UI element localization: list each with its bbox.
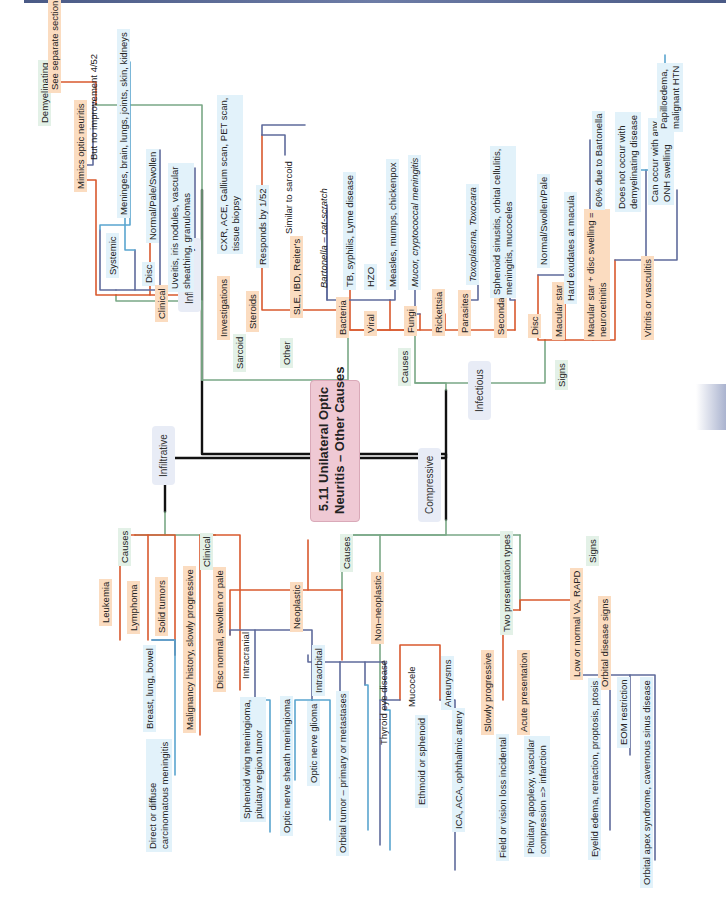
node-disc-normal-pale-swollen: Normal/Pale/Swollen: [146, 149, 159, 243]
node-fungi: Fungi: [404, 306, 417, 336]
category-compressive: Compressive: [418, 448, 441, 522]
node-eom-restriction: EOM restriction: [617, 677, 630, 748]
node-ethmoid-sphenoid: Ethmoid or sphenoid: [415, 715, 428, 808]
node-orbital-disease-signs: Orbital disease signs: [598, 596, 611, 690]
papilloedema-line-2: malignant HTN: [670, 66, 682, 129]
node-similar-to-sarcoid: Similar to sarcoid: [282, 158, 295, 237]
node-optic-nerve-glioma: Optic nerve glioma: [307, 701, 320, 786]
node-normal-swollen-pale: Normal/Swollen/Pale: [537, 174, 550, 268]
any-onh-line-1: Can occur with any: [649, 121, 661, 202]
neuroretinitis-line-1: Macular star + disc swelling =: [585, 212, 597, 337]
node-orbital-tumor: Orbital tumor – primary or metastases: [336, 691, 349, 856]
title-line-2: Neuritis – Other Causes: [332, 384, 348, 514]
node-acute-presentation: Acute presentation: [517, 650, 530, 735]
node-field-vision-loss: Field or vision loss incidental: [496, 734, 509, 861]
node-eyelid-edema: Eyelid edema, retraction, proptosis, pto…: [588, 678, 601, 860]
node-toxoplasma: Toxoplasma, Toxocara: [466, 184, 479, 285]
node-hzo: HZO: [364, 264, 377, 290]
node-pituitary-apoplexy: Pituitary apoplexy, vascular compression…: [524, 736, 550, 857]
node-hard-exudates: Hard exudates at macula: [564, 192, 577, 304]
carcinomatous-line-1: Direct or diffuse: [147, 742, 159, 849]
pituitary-line-1: Pituitary apoplexy, vascular: [525, 739, 537, 854]
pituitary-line-2: compression => infarction: [537, 739, 549, 854]
papilloedema-line-1: Papilloedema,: [658, 66, 670, 129]
node-clinical: Clinical: [155, 285, 168, 322]
node-solid-tumors: Solid tumors: [155, 577, 168, 636]
not-demyelinating-line-1: Does not occur with: [616, 115, 628, 209]
node-uveitis: Uveitis, iris nodules, vascular sheathin…: [168, 164, 194, 293]
uveitis-line-2: sheathing, granulomas: [181, 167, 193, 290]
investigations-line-1: CXR, ACE, Gallium scan, PET scan,: [218, 98, 230, 251]
node-orbital-apex: Orbital apex syndrome, cavernous sinus d…: [640, 677, 653, 888]
node-sphenoid-sinusitis: Sphenoid sinusitis, orbital cellulitis, …: [490, 146, 516, 298]
carcinomatous-line-2: carcinomatous meningitis: [159, 742, 171, 849]
node-vitritis: Vitritis or vasculitis: [641, 256, 654, 340]
title-line-1: 5.11 Unilateral Optic: [316, 384, 332, 514]
bartonella-text: Bartonella – cat-scratch: [318, 188, 329, 288]
node-breast-lung-bowel: Breast, lung, bowel: [143, 645, 156, 732]
node-viral: Viral: [364, 311, 377, 336]
sphenoid-line-1: Sphenoid sinusitis, orbital cellulitis,: [491, 149, 503, 295]
node-optic-sheath-meningioma: Optic nerve sheath meningioma: [280, 696, 293, 836]
node-sle-ibd-reiters: SLE, IBD, Reiter's: [290, 236, 303, 318]
node-carcinomatous: Direct or diffuse carcinomatous meningit…: [146, 739, 172, 852]
category-infectious: Infectious: [468, 361, 491, 420]
node-mimics-optic-neuritis: Mimics optic neuritis: [74, 100, 87, 192]
node-compressive-signs: Signs: [586, 536, 599, 566]
node-bacteria: Bacteria: [336, 297, 349, 338]
node-sarcoid: Sarcoid: [233, 334, 246, 372]
node-parasites: Parasites: [458, 290, 471, 336]
node-leukemia: Leukemia: [99, 579, 112, 626]
node-slowly-progressive: Slowly progressive: [481, 650, 494, 735]
node-no-improvement: But no improvement 4/52: [87, 51, 100, 163]
node-infectious-causes: Causes: [398, 348, 411, 386]
investigations-line-2: tissue biopsy: [230, 98, 242, 251]
node-aneurysms: Aneurysms: [441, 656, 454, 710]
node-bartonella-60: 60% due to Bartonella: [592, 111, 605, 210]
node-sphenoid-wing-meningioma: Sphenoid wing meningioma, pituitary regi…: [240, 697, 266, 822]
node-compressive-causes: Causes: [340, 534, 353, 572]
not-demyelinating-line-2: demyelinating disease: [628, 115, 640, 209]
node-mucocele: Mucocele: [405, 663, 418, 710]
node-two-presentation-types: Two presentation types: [500, 531, 513, 635]
node-neoplastic: Neoplastic: [290, 582, 303, 632]
node-measles: Measles, mumps, chickenpox: [386, 159, 399, 290]
node-systemic-detail: Meninges, brain, lungs, joints, skin, ki…: [117, 29, 130, 218]
node-tb-syphilis: TB, syphilis, Lyme disease: [343, 172, 356, 290]
node-investigations-detail: CXR, ACE, Gallium scan, PET scan, tissue…: [217, 95, 243, 254]
node-infectious-disc: Disc: [528, 314, 541, 338]
node-infiltrative-causes: Causes: [118, 528, 131, 566]
diagram-title: 5.11 Unilateral Optic Neuritis – Other C…: [316, 384, 348, 514]
node-papilloedema: Papilloedema, malignant HTN: [657, 63, 683, 132]
node-infiltrative-clinical: Clinical: [200, 533, 213, 570]
bartonella-60-text: 60% due to Bartonella: [593, 114, 604, 207]
node-rickettsia: Rickettsia: [432, 289, 445, 336]
node-neuroretinitis: Macular star + disc swelling = neuroreti…: [584, 209, 610, 340]
toxoplasma-text: Toxoplasma, Toxocara: [467, 187, 478, 282]
node-disc-normal-swollen-pale: Disc normal, swollen or pale: [213, 567, 226, 692]
node-malignancy-history: Malignancy history, slowly progressive: [183, 566, 196, 733]
neuroretinitis-line-2: neuroretinitis: [597, 212, 609, 337]
node-ica-aca: ICA, ACA, ophthalmic artery: [452, 708, 465, 832]
node-lymphoma: Lymphoma: [127, 581, 140, 634]
node-low-normal-va: Low or normal VA, RAPD: [570, 568, 583, 680]
any-onh-line-2: ONH swelling: [661, 121, 673, 202]
node-investigations: Investigations: [217, 276, 230, 340]
node-responds: Responds by 1/52: [256, 185, 269, 268]
node-not-demyelinating: Does not occur with demyelinating diseas…: [615, 112, 641, 212]
node-see-separate-section: See separate section: [48, 0, 61, 93]
sphenoid-line-2: meningitis, mucoceles: [503, 149, 515, 295]
node-steroids: Steroids: [246, 291, 259, 332]
node-intraorbital: Intraorbital: [312, 645, 325, 696]
node-thyroid-eye-disease: Thyroid eye disease: [377, 657, 390, 748]
node-disc: Disc: [142, 262, 155, 286]
sphenoid-wing-line-2: pituitary region tumor: [253, 700, 265, 819]
node-non-neoplastic: Non–neoplastic: [371, 573, 384, 645]
category-infiltrative: Infiltrative: [152, 426, 175, 485]
node-other: Other: [280, 338, 293, 368]
node-intracranial: Intracranial: [239, 629, 252, 682]
node-bartonella: Bartonella – cat-scratch: [317, 185, 330, 291]
node-systemic: Systemic: [106, 233, 119, 278]
node-mucor: Mucor, cryptococcal meningitis: [408, 155, 421, 290]
uveitis-line-1: Uveitis, iris nodules, vascular: [169, 167, 181, 290]
